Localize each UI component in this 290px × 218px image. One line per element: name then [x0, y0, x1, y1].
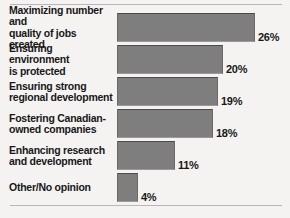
bar-category-label: Fostering Canadian- owned companies: [9, 112, 113, 135]
bar-value-label: 4%: [141, 191, 156, 203]
bar-chart-figure: Maximizing number and quality of jobs cr…: [0, 0, 290, 218]
bar-value-label: 11%: [178, 159, 199, 171]
bar-value-label: 18%: [216, 127, 237, 139]
bar-value-label: 26%: [258, 31, 279, 43]
table-row: Ensuring strong regional development 19%: [0, 77, 290, 106]
bar-category-label: Other/No opinion: [9, 182, 113, 194]
bar-value-label: 19%: [221, 95, 242, 107]
table-row: Ensuring environment is protected 20%: [0, 45, 290, 74]
table-row: Enhancing research and development 11%: [0, 141, 290, 170]
bar-other-no-opinion: [117, 173, 138, 202]
table-row: Other/No opinion 4%: [0, 173, 290, 202]
table-row: Maximizing number and quality of jobs cr…: [0, 13, 290, 42]
bottom-divider-rule: [10, 205, 282, 206]
bar-research-development: [117, 141, 175, 170]
bar-category-label: Ensuring environment is protected: [9, 42, 113, 77]
chart-plot-area: Maximizing number and quality of jobs cr…: [0, 13, 290, 203]
bar-canadian-owned-companies: [117, 109, 213, 138]
bar-maximizing-jobs: [117, 13, 255, 42]
table-row: Fostering Canadian- owned companies 18%: [0, 109, 290, 138]
bar-value-label: 20%: [226, 63, 247, 75]
bar-category-label: Enhancing research and development: [9, 144, 113, 167]
bar-regional-development: [117, 77, 218, 106]
bar-environment-protected: [117, 45, 223, 74]
bar-category-label: Ensuring strong regional development: [9, 80, 113, 103]
